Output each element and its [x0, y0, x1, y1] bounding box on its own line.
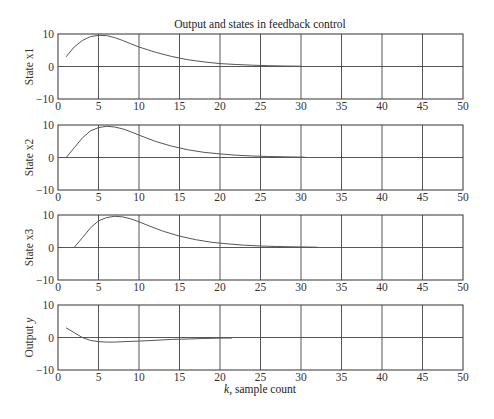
x-tick-label: 40 — [376, 371, 388, 383]
y-tick-label: 0 — [48, 152, 54, 164]
y-tick-label: 0 — [48, 332, 54, 344]
data-line — [66, 126, 305, 157]
y-tick-label: 10 — [43, 119, 55, 131]
x-tick-label: 0 — [55, 100, 61, 112]
x-tick-label: 40 — [376, 281, 388, 293]
x-tick-label: 5 — [96, 371, 102, 383]
x-tick-label: 30 — [295, 281, 307, 293]
x-tick-label: 10 — [133, 191, 145, 203]
y-tick-label: 0 — [48, 61, 54, 73]
x-tick-label: 25 — [255, 371, 267, 383]
chart-figure: Output and states in feedback control −1… — [0, 0, 494, 419]
x-tick-label: 5 — [96, 100, 102, 112]
x-tick-label: 15 — [174, 100, 186, 112]
y-tick-label: 10 — [43, 209, 55, 221]
x-tick-label: 10 — [133, 281, 145, 293]
y-tick-label: −10 — [36, 93, 54, 105]
x-tick-label: 20 — [214, 281, 226, 293]
x-tick-label: 50 — [457, 100, 469, 112]
x-tick-label: 50 — [457, 371, 469, 383]
y-axis-label: State x3 — [23, 229, 35, 267]
y-tick-label: −10 — [36, 274, 54, 286]
subplot-4: −1001005101520253035404550Output y — [23, 299, 469, 383]
x-tick-label: 35 — [336, 100, 348, 112]
x-tick-label: 40 — [376, 100, 388, 112]
x-tick-label: 35 — [336, 281, 348, 293]
x-tick-label: 5 — [96, 281, 102, 293]
x-tick-label: 20 — [214, 191, 226, 203]
x-tick-label: 20 — [214, 371, 226, 383]
x-tick-label: 45 — [417, 100, 429, 112]
subplot-2: −1001005101520253035404550State x2 — [23, 119, 469, 203]
x-tick-label: 0 — [55, 371, 61, 383]
x-axis-label-text: , sample count — [229, 383, 297, 396]
data-line — [66, 328, 232, 342]
subplot-1: −1001005101520253035404550State x1 — [23, 28, 469, 112]
x-axis-label: k, sample count — [224, 383, 297, 396]
x-tick-label: 30 — [295, 371, 307, 383]
x-tick-label: 25 — [255, 191, 267, 203]
y-tick-label: −10 — [36, 364, 54, 376]
x-tick-label: 45 — [417, 191, 429, 203]
x-tick-label: 40 — [376, 191, 388, 203]
x-tick-label: 45 — [417, 371, 429, 383]
x-tick-label: 25 — [255, 281, 267, 293]
x-tick-label: 50 — [457, 281, 469, 293]
data-line — [74, 216, 317, 247]
x-tick-label: 35 — [336, 371, 348, 383]
y-axis-label: Output y — [23, 317, 36, 358]
x-tick-label: 5 — [96, 191, 102, 203]
x-tick-label: 10 — [133, 100, 145, 112]
subplot-panels: −1001005101520253035404550State x1−10010… — [23, 28, 469, 383]
x-tick-label: 0 — [55, 191, 61, 203]
x-tick-label: 50 — [457, 191, 469, 203]
y-tick-label: 0 — [48, 242, 54, 254]
x-tick-label: 15 — [174, 191, 186, 203]
y-axis-label: State x1 — [23, 48, 35, 86]
data-line — [66, 35, 301, 66]
x-tick-label: 15 — [174, 281, 186, 293]
x-tick-label: 15 — [174, 371, 186, 383]
x-tick-label: 30 — [295, 100, 307, 112]
chart-title: Output and states in feedback control — [174, 18, 346, 31]
subplot-3: −1001005101520253035404550State x3 — [23, 209, 469, 293]
x-tick-label: 0 — [55, 281, 61, 293]
y-tick-label: −10 — [36, 184, 54, 196]
x-tick-label: 20 — [214, 100, 226, 112]
y-axis-label: State x2 — [23, 139, 35, 177]
x-tick-label: 10 — [133, 371, 145, 383]
x-tick-label: 25 — [255, 100, 267, 112]
x-tick-label: 30 — [295, 191, 307, 203]
y-tick-label: 10 — [43, 28, 55, 40]
y-tick-label: 10 — [43, 299, 55, 311]
x-tick-label: 35 — [336, 191, 348, 203]
x-tick-label: 45 — [417, 281, 429, 293]
